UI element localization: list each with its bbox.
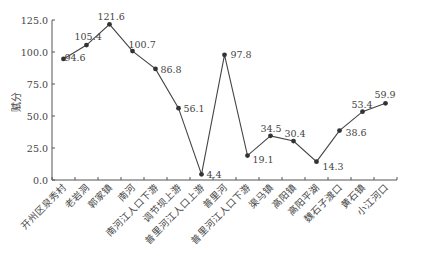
- x-tick-label: 开州区泉秀村: [19, 182, 69, 232]
- y-tick-label: 25.0: [27, 143, 48, 154]
- data-labels: 94.6105.4121.6100.786.856.14.497.819.134…: [65, 11, 396, 180]
- data-point-marker: [245, 153, 250, 158]
- y-tick-label: 75.0: [27, 79, 48, 90]
- data-label: 100.7: [129, 39, 156, 50]
- data-markers: [61, 22, 388, 177]
- data-label: 19.1: [253, 154, 274, 165]
- data-label: 121.6: [98, 11, 125, 22]
- data-point-marker: [360, 109, 365, 114]
- data-point-marker: [383, 101, 388, 106]
- data-label: 94.6: [65, 52, 86, 63]
- data-label: 34.5: [261, 123, 282, 134]
- data-point-marker: [199, 172, 204, 177]
- data-label: 56.1: [184, 103, 205, 114]
- x-tick-label: 渠马镇: [247, 182, 276, 211]
- series-line: [64, 24, 386, 174]
- data-point-marker: [176, 106, 181, 111]
- data-label: 38.6: [346, 127, 367, 138]
- data-label: 86.8: [161, 64, 182, 75]
- data-point-marker: [84, 43, 89, 48]
- x-axis: [52, 177, 397, 180]
- y-tick-label: 100.0: [21, 47, 48, 58]
- data-label: 14.3: [323, 161, 344, 172]
- data-point-marker: [107, 22, 112, 27]
- data-label: 97.8: [231, 49, 252, 60]
- x-tick-label: 郭家镇: [86, 182, 115, 211]
- x-tick-labels: 开州区泉秀村老岩洞郭家镇南河南河江人口下游调节坝上游普里河江人口上游普里河普里河…: [19, 182, 391, 246]
- data-point-marker: [268, 133, 273, 138]
- y-tick-label: 0.0: [33, 175, 48, 186]
- y-tick-label: 50.0: [27, 111, 48, 122]
- data-point-marker: [222, 52, 227, 57]
- data-label: 30.4: [285, 128, 306, 139]
- data-label: 105.4: [75, 31, 102, 42]
- data-point-marker: [314, 159, 319, 164]
- data-point-marker: [153, 66, 158, 71]
- x-tick-label: 老岩洞: [63, 182, 92, 211]
- y-axis-title: 赋分: [11, 92, 22, 112]
- data-point-marker: [291, 139, 296, 144]
- y-tick-label: 125.0: [21, 15, 48, 26]
- data-label: 4.4: [207, 169, 222, 180]
- data-point-marker: [337, 128, 342, 133]
- line-chart: 0.025.050.075.0100.0125.0 赋分 94.6105.412…: [0, 0, 421, 268]
- data-label: 59.9: [375, 89, 396, 100]
- y-axis: 0.025.050.075.0100.0125.0: [21, 15, 55, 186]
- data-label: 53.4: [352, 99, 373, 110]
